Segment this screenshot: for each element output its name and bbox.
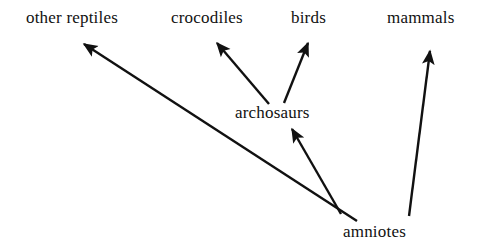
edge-archosaurs-to-birds — [284, 43, 308, 103]
node-label-birds: birds — [291, 9, 326, 26]
node-label-mammals: mammals — [387, 9, 455, 26]
edge-archosaurs-to-crocodiles — [217, 43, 269, 104]
node-label-amniotes: amniotes — [343, 223, 406, 240]
diagram-canvas — [0, 0, 497, 247]
edge-amniotes-to-other-reptiles — [84, 44, 357, 221]
node-label-archosaurs: archosaurs — [235, 104, 310, 121]
edge-amniotes-to-mammals — [409, 51, 430, 216]
edge-amniotes-to-archosaurs — [292, 129, 341, 214]
node-label-other-reptiles: other reptiles — [26, 9, 118, 26]
node-label-crocodiles: crocodiles — [171, 9, 243, 26]
cladogram-diagram: other reptiles crocodiles birds mammals … — [0, 0, 497, 247]
